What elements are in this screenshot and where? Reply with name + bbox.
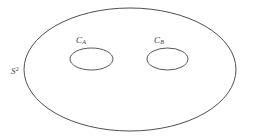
- curve-a-ellipse: [70, 48, 113, 70]
- curve-b-ellipse: [147, 48, 188, 70]
- diagram-svg: [0, 0, 253, 140]
- figure-canvas: S2 CA CB: [0, 0, 253, 140]
- sphere-label: S2: [11, 61, 19, 77]
- curve-b-label-subscript: B: [160, 39, 164, 45]
- curve-a-label-subscript: A: [82, 39, 86, 45]
- curve-a-label: CA: [76, 30, 86, 46]
- curve-b-label: CB: [154, 30, 164, 46]
- sphere-label-base: S: [11, 66, 16, 76]
- sphere-label-exponent: 2: [16, 66, 19, 72]
- sphere-boundary-ellipse: [24, 8, 236, 131]
